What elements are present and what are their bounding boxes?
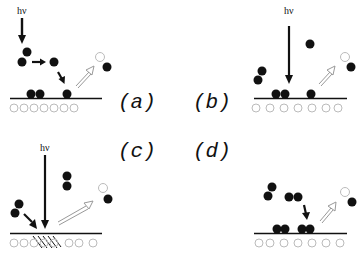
- photon-label: hν: [40, 142, 50, 153]
- molecule: [264, 183, 277, 201]
- adsorbed-atoms: [272, 90, 316, 99]
- photon-label: hν: [284, 5, 294, 16]
- desorption-arrow: [76, 66, 94, 88]
- panel-label-c: (c): [118, 140, 156, 163]
- adsorption-arrow: [58, 72, 65, 84]
- desorption-arrow: [320, 202, 336, 223]
- photon-arrow: [41, 155, 49, 229]
- desorption-arrow: [58, 201, 93, 225]
- desorbed-atom: [103, 63, 112, 72]
- desorbed-atom: [348, 198, 357, 207]
- panel-label-a: (a): [118, 91, 156, 114]
- desorbed-atom-open: [96, 53, 105, 62]
- desorbed-atom: [104, 195, 113, 204]
- substrate-lattice: [252, 104, 342, 112]
- transfer-arrow: [32, 59, 46, 66]
- panel-c: (c) hν: [10, 140, 156, 248]
- adsorbed-atoms: [27, 90, 72, 99]
- photon-arrow: [18, 18, 26, 44]
- molecule: [18, 48, 32, 67]
- desorbed-atom: [347, 63, 356, 72]
- desorbed-atom-open: [341, 188, 350, 197]
- adsorption-arrow: [302, 205, 310, 220]
- molecule: [11, 200, 24, 218]
- panel-label-d: (d): [193, 140, 231, 163]
- molecule: [285, 193, 303, 202]
- panel-label-b: (b): [193, 91, 231, 114]
- approach-arrow: [24, 214, 37, 229]
- substrate-lattice: [10, 104, 78, 112]
- atom: [306, 40, 315, 49]
- molecule: [254, 67, 267, 85]
- substrate-lattice: [255, 239, 344, 247]
- atom: [50, 58, 59, 67]
- desorbed-atom-open: [99, 184, 108, 193]
- surface-process-diagram: hν: [0, 0, 364, 253]
- molecule: [63, 172, 72, 191]
- photon-label: hν: [17, 5, 27, 16]
- adsorbed-atoms: [273, 225, 315, 234]
- photon-arrow: [285, 26, 293, 84]
- panel-b: (b) hν: [193, 5, 356, 114]
- desorbed-atom-open: [341, 53, 350, 62]
- panel-a: hν: [10, 5, 156, 114]
- desorption-arrow: [319, 66, 335, 86]
- panel-d: (d): [193, 140, 357, 247]
